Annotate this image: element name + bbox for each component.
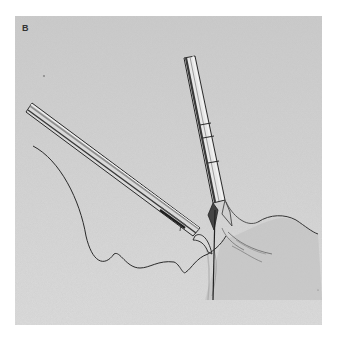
panel-label: B	[22, 23, 29, 33]
suture-thread	[33, 146, 226, 273]
surgical-illustration	[15, 16, 322, 325]
grasper-instrument	[184, 56, 258, 230]
illustration-panel: B	[15, 16, 322, 325]
needle-holder-instrument	[26, 103, 212, 254]
tissue-fold	[205, 216, 322, 300]
